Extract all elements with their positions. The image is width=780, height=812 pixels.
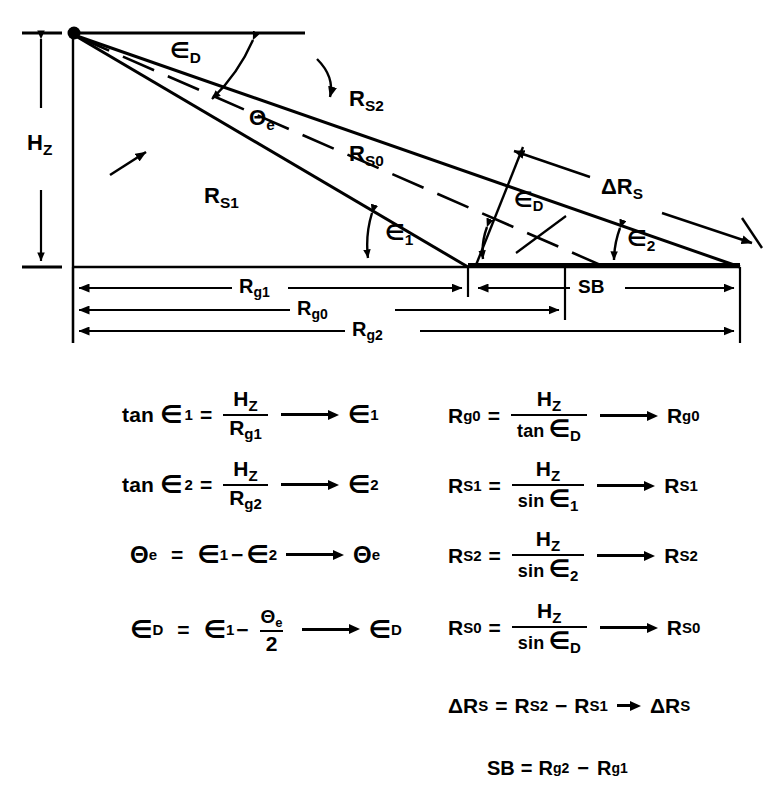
- implies-arrow: [597, 481, 655, 491]
- label-epsilon-d-ground: ∈D: [514, 189, 543, 214]
- implies-arrow: [281, 480, 339, 490]
- implies-arrow: [617, 701, 641, 711]
- implies-arrow: [302, 624, 360, 634]
- implies-arrow: [286, 550, 344, 560]
- fraction-hz-over-rg1: HZ Rg1: [223, 388, 268, 441]
- label-rs0: RS0: [349, 143, 384, 168]
- label-rg2: Rg2: [352, 319, 383, 342]
- label-epsilon-d-apex: ∈D: [170, 40, 201, 65]
- angle-arc-epsilon-d-ground: [483, 216, 566, 259]
- label-delta-rs: ΔRS: [601, 176, 643, 201]
- equation-sb: SB = Rg2 − Rg1: [487, 758, 628, 778]
- label-theta-e: Θe: [249, 107, 275, 132]
- implies-arrow: [281, 410, 339, 420]
- fraction-hz-over-sin-epsilon-1: HZ sin∈1: [512, 458, 584, 513]
- label-sb: SB: [578, 277, 604, 296]
- angle-arc-epsilon-2: [614, 228, 620, 260]
- implies-arrow: [600, 411, 658, 421]
- delta-rs-tick-far: [742, 218, 762, 248]
- label-rg1: Rg1: [239, 276, 270, 299]
- slant-range-rs0-line: [78, 37, 612, 270]
- fraction-theta-e-over-two: Θe 2: [255, 605, 289, 654]
- fraction-hz-over-rg2: HZ Rg2: [223, 458, 268, 511]
- equation-rs1: RS1 = HZ sin∈1 RS1: [448, 458, 698, 513]
- equation-rg0: Rg0 = HZ tan∈D Rg0: [448, 388, 700, 443]
- equation-tan-epsilon-1: tan ∈1 = HZ Rg1 ∈1: [122, 388, 379, 441]
- theta-e-leader-arrow: [317, 59, 331, 97]
- equation-tan-epsilon-2: tan ∈2 = HZ Rg2 ∈2: [122, 458, 379, 511]
- label-epsilon-2: ∈2: [627, 228, 655, 253]
- fraction-hz-over-tan-epsilon-d: HZ tan∈D: [511, 388, 587, 443]
- implies-arrow: [597, 551, 655, 561]
- label-rs2: RS2: [349, 88, 384, 113]
- implies-arrow: [600, 623, 658, 633]
- label-hz: HZ: [27, 132, 52, 157]
- label-epsilon-1: ∈1: [385, 222, 413, 247]
- label-rg0: Rg0: [297, 298, 328, 321]
- equation-epsilon-d: ∈D = ∈1 − Θe 2 ∈D: [130, 605, 402, 654]
- theta-e-leader-arrow-lower: [110, 152, 146, 175]
- angle-arc-epsilon-1: [367, 213, 372, 258]
- fraction-hz-over-sin-epsilon-d: HZ sin∈D: [512, 600, 587, 655]
- equation-delta-rs: ΔRS = RS2 − RS1 ΔRS: [448, 695, 690, 716]
- label-rs1: RS1: [204, 185, 239, 210]
- equation-rs0: RS0 = HZ sin∈D RS0: [448, 600, 700, 655]
- equation-theta-e: Θe = ∈1 − ∈2 Θe: [130, 542, 380, 567]
- fraction-hz-over-sin-epsilon-2: HZ sin∈2: [512, 528, 584, 583]
- equation-rs2: RS2 = HZ sin∈2 RS2: [448, 528, 698, 583]
